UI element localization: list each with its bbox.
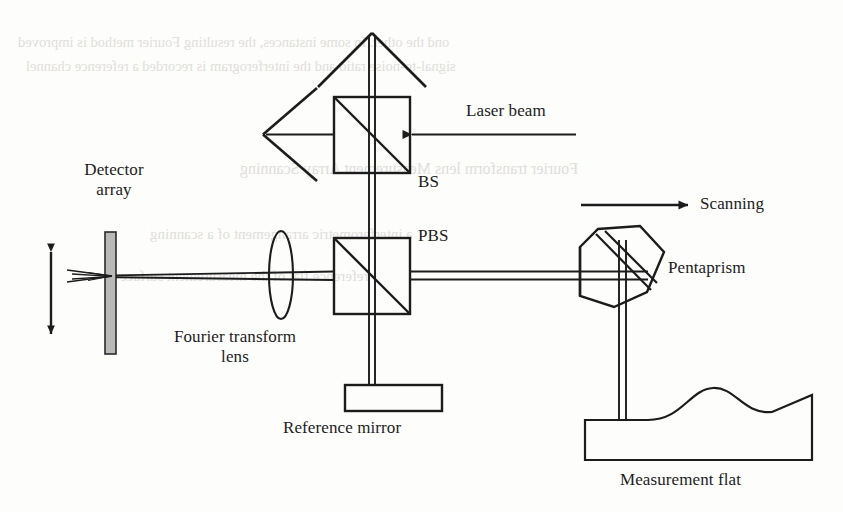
beam-pbs-to-detector — [116, 272, 334, 281]
pentaprism-label: Pentaprism — [668, 258, 746, 278]
detector-array-label-line1: Detector — [60, 160, 168, 180]
beam-pbs-to-pentaprism — [410, 272, 648, 280]
bs-label: BS — [418, 172, 439, 192]
upward-output-arrow — [318, 33, 426, 87]
reference-mirror-label: Reference mirror — [283, 418, 401, 438]
polarizing-beam-splitter-pbs — [334, 238, 410, 314]
detector-array-label-line2: array — [60, 180, 168, 200]
pentaprism — [580, 226, 664, 307]
optical-schematic-svg — [0, 0, 843, 512]
scanning-label: Scanning — [700, 194, 764, 214]
leftward-output-beam — [263, 88, 334, 181]
fourier-lens-label: Fourier transform lens — [137, 327, 333, 367]
vertical-beam-column — [369, 36, 375, 386]
detector-array-group — [51, 232, 116, 354]
beam-pentaprism-to-flat — [619, 240, 626, 421]
measurement-flat-label: Measurement flat — [620, 470, 741, 490]
reference-mirror — [345, 385, 442, 411]
laser-beam-label: Laser beam — [466, 101, 546, 121]
bs-splitting-surface — [334, 97, 410, 173]
beam-splitter-bs — [334, 97, 410, 173]
pbs-label: PBS — [418, 226, 449, 246]
pentaprism-body — [580, 226, 664, 307]
detector-array-label: Detector array — [60, 160, 168, 200]
fourier-lens-label-line2: lens — [137, 347, 333, 367]
pentaprism-reflective-face-inner — [605, 231, 657, 283]
pbs-splitting-surface — [334, 238, 410, 314]
fourier-transform-lens — [269, 231, 293, 319]
fourier-lens-label-line1: Fourier transform — [137, 327, 333, 347]
figure-canvas: ond the other. In some instances, the re… — [0, 0, 843, 512]
pentaprism-reflective-face-outer — [596, 234, 651, 290]
detector-array — [105, 232, 116, 354]
